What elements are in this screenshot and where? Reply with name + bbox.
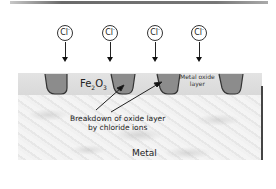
oxide-formula-label: Fe2O3 [80, 78, 107, 91]
label-line: layer [180, 80, 215, 87]
metal-label: Metal [132, 148, 157, 158]
pit-shape [219, 74, 243, 94]
pointer-line [96, 88, 121, 110]
label-line: Breakdown of oxide layer [70, 114, 165, 123]
pits-and-pointers [0, 0, 276, 189]
pit-shape [45, 74, 67, 94]
breakdown-annotation: Breakdown of oxide layer by chloride ion… [70, 114, 165, 132]
pit-shape [111, 74, 135, 94]
label-line: by chloride ions [70, 123, 165, 132]
label-line: Metal oxide [180, 73, 215, 80]
metal-oxide-layer-label: Metal oxide layer [180, 73, 215, 87]
